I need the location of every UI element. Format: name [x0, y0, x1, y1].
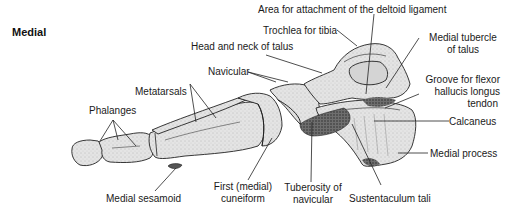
talus-bone [304, 44, 410, 104]
label-head-neck-talus: Head and neck of talus [191, 41, 293, 52]
label-sustentaculum-tali: Sustentaculum tali [349, 193, 431, 204]
label-tuberosity-navicular-line1: Tuberosity of [280, 182, 346, 193]
label-first-cuneiform-line1: First (medial) [208, 181, 278, 192]
label-calcaneus: Calcaneus [449, 116, 496, 127]
view-label: Medial [12, 26, 46, 38]
label-groove-flexor-line2: hallucis longus [410, 86, 500, 97]
label-phalanges: Phalanges [89, 105, 136, 116]
foot-bones-medial-view-diagram: Medial Area for attachment of the deltoi… [0, 0, 506, 210]
label-medial-tubercle-line1: Medial tubercle [423, 32, 503, 43]
label-tuberosity-navicular-line2: navicular [280, 194, 346, 205]
label-medial-process: Medial process [430, 148, 497, 159]
label-medial-tubercle-line2: of talus [423, 44, 503, 55]
label-groove-flexor-line1: Groove for flexor [410, 74, 500, 85]
phalanges-bones [72, 133, 155, 166]
label-metatarsals: Metatarsals [135, 86, 187, 97]
label-medial-sesamoid: Medial sesamoid [106, 193, 181, 204]
medial-sesamoid-bone [168, 164, 182, 169]
label-trochlea-for-tibia: Trochlea for tibia [263, 25, 337, 36]
label-navicular: Navicular [208, 66, 250, 77]
label-first-cuneiform-line2: cuneiform [208, 193, 278, 204]
metatarsal-bones [149, 98, 267, 159]
label-deltoid-ligament-area: Area for attachment of the deltoid ligam… [258, 4, 446, 15]
label-groove-flexor-line3: tendon [410, 98, 498, 109]
